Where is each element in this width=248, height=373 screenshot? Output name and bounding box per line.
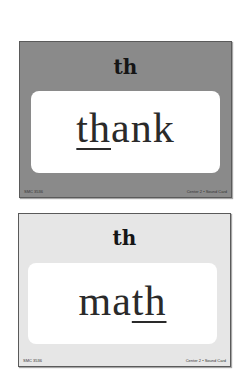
word: thank	[31, 107, 220, 149]
word-panel: math	[28, 263, 217, 344]
sound-card-thank: th thank SMC 3536 Center 2 • Sound Card	[19, 41, 232, 198]
word-underlined-digraph: th	[76, 105, 111, 151]
word-panel: thank	[31, 91, 220, 173]
sound-card-math: th math SMC 3536 Center 2 • Sound Card	[18, 213, 231, 367]
product-code: SMC 3536	[24, 189, 43, 194]
card-caption: Center 2 • Sound Card	[187, 189, 227, 194]
word-underlined-digraph: th	[132, 278, 167, 324]
word: math	[28, 280, 217, 322]
word-prefix: ma	[79, 278, 132, 324]
sound-label: th	[19, 226, 230, 250]
sound-label: th	[20, 55, 231, 79]
word-suffix: ank	[111, 105, 175, 151]
product-code: SMC 3536	[23, 358, 42, 363]
card-caption: Center 2 • Sound Card	[186, 358, 226, 363]
